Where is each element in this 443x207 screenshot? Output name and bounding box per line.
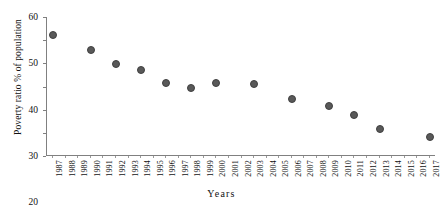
- x-tick-mark: [115, 156, 116, 158]
- x-tick-label: 2000: [218, 160, 227, 177]
- data-point: [376, 125, 384, 133]
- x-tick-label: 2015: [407, 160, 416, 177]
- x-tick-mark: [77, 156, 78, 158]
- x-tick-label: 1990: [93, 160, 102, 177]
- x-tick-label: 2006: [294, 160, 303, 177]
- x-tick-mark: [278, 156, 279, 158]
- x-tick-mark: [241, 156, 242, 158]
- y-tick-mark: 60: [43, 17, 46, 18]
- x-tick-mark: [128, 156, 129, 158]
- x-tick-label: 1988: [68, 160, 77, 177]
- data-point: [162, 79, 170, 87]
- x-tick-label: 1991: [105, 160, 114, 177]
- x-tick-mark: [228, 156, 229, 158]
- x-tick-label: 2011: [356, 160, 365, 177]
- x-tick-label: 2008: [319, 160, 328, 177]
- data-point: [325, 102, 333, 110]
- x-tick-label: 1994: [143, 160, 152, 177]
- x-tick-label: 2012: [369, 160, 378, 177]
- x-tick-mark: [303, 156, 304, 158]
- plot-area: 0102030405060 19871988198919901991199219…: [46, 17, 435, 156]
- x-tick-mark: [52, 156, 53, 158]
- x-tick-label: 2009: [331, 160, 340, 177]
- y-tick-mark: 30: [43, 87, 46, 88]
- x-tick-label: 1996: [168, 160, 177, 177]
- x-tick-label: 1997: [181, 160, 190, 177]
- x-tick-label: 2017: [432, 160, 441, 177]
- x-tick-mark: [253, 156, 254, 158]
- x-tick-label: 1989: [80, 160, 89, 177]
- y-tick-mark: 40: [43, 63, 46, 64]
- data-point: [212, 79, 220, 87]
- data-point: [137, 66, 145, 74]
- data-point: [250, 80, 258, 88]
- x-tick-label: 2004: [269, 160, 278, 177]
- x-tick-label: 2005: [281, 160, 290, 177]
- y-tick-mark: 0: [43, 156, 46, 157]
- x-tick-mark: [316, 156, 317, 158]
- x-tick-mark: [165, 156, 166, 158]
- y-tick-label: 60: [29, 12, 39, 22]
- x-tick-label: 2001: [231, 160, 240, 177]
- poverty-ratio-scatter-chart: Poverty ratio % of population 0102030405…: [0, 0, 443, 207]
- x-tick-mark: [65, 156, 66, 158]
- y-axis-line: [46, 17, 47, 156]
- data-point: [112, 60, 120, 68]
- x-tick-label: 1992: [118, 160, 127, 177]
- x-tick-label: 2013: [382, 160, 391, 177]
- y-tick-mark: 10: [43, 133, 46, 134]
- x-tick-label: 1998: [193, 160, 202, 177]
- x-tick-mark: [429, 156, 430, 158]
- x-tick-mark: [153, 156, 154, 158]
- x-tick-mark: [341, 156, 342, 158]
- y-tick-label: 40: [29, 105, 39, 115]
- x-tick-mark: [203, 156, 204, 158]
- x-tick-label: 2002: [244, 160, 253, 177]
- x-tick-mark: [291, 156, 292, 158]
- x-tick-label: 1995: [156, 160, 165, 177]
- x-tick-mark: [416, 156, 417, 158]
- x-tick-label: 2014: [394, 160, 403, 177]
- x-tick-mark: [215, 156, 216, 158]
- x-tick-mark: [102, 156, 103, 158]
- x-tick-mark: [140, 156, 141, 158]
- x-tick-mark: [90, 156, 91, 158]
- x-tick-mark: [266, 156, 267, 158]
- data-point: [187, 84, 195, 92]
- x-tick-mark: [178, 156, 179, 158]
- x-tick-mark: [366, 156, 367, 158]
- x-tick-label: 2016: [419, 160, 428, 177]
- data-point: [87, 46, 95, 54]
- x-tick-mark: [353, 156, 354, 158]
- data-point: [426, 133, 434, 141]
- x-tick-label: 1999: [206, 160, 215, 177]
- y-axis-title: Poverty ratio % of population: [13, 0, 23, 157]
- x-axis-title: Years: [0, 188, 443, 199]
- y-tick-mark: 50: [43, 40, 46, 41]
- x-tick-mark: [190, 156, 191, 158]
- data-point: [49, 31, 57, 39]
- x-tick-mark: [404, 156, 405, 158]
- y-tick-label: 50: [29, 58, 39, 68]
- data-point: [350, 111, 358, 119]
- x-tick-label: 2010: [344, 160, 353, 177]
- x-tick-mark: [328, 156, 329, 158]
- x-tick-mark: [379, 156, 380, 158]
- data-point: [288, 95, 296, 103]
- y-tick-label: 30: [29, 151, 39, 161]
- y-tick-mark: 20: [43, 110, 46, 111]
- x-tick-mark: [391, 156, 392, 158]
- x-tick-label: 2007: [306, 160, 315, 177]
- x-tick-label: 1987: [55, 160, 64, 177]
- x-tick-label: 1993: [131, 160, 140, 177]
- x-tick-label: 2003: [256, 160, 265, 177]
